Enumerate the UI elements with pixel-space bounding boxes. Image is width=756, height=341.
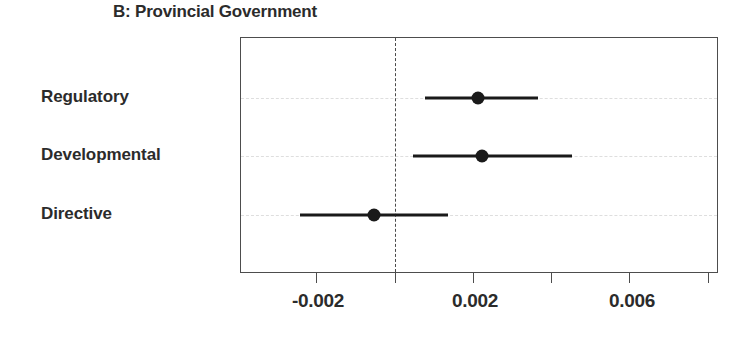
ytick-label-regulatory: Regulatory <box>41 87 129 107</box>
xtick-mark-3 <box>473 273 474 283</box>
point-estimate-regulatory <box>472 92 485 105</box>
ytick-label-directive: Directive <box>41 204 112 224</box>
xtick-label-0002: 0.002 <box>452 290 498 312</box>
point-estimate-directive <box>368 209 381 222</box>
point-estimate-developmental <box>476 150 489 163</box>
xtick-mark-2 <box>395 273 396 283</box>
xtick-mark-6 <box>708 273 709 283</box>
xtick-label-neg-0002: -0.002 <box>292 290 344 312</box>
forest-plot-figure: B: Provincial Government Regulatory Deve… <box>0 0 756 341</box>
ytick-label-developmental: Developmental <box>41 145 161 165</box>
xtick-mark-5 <box>629 273 630 283</box>
confidence-interval-developmental <box>413 155 572 158</box>
panel-title: B: Provincial Government <box>113 2 317 22</box>
xtick-mark-4 <box>551 273 552 283</box>
plot-area <box>240 37 718 273</box>
xtick-label-0006: 0.006 <box>609 290 655 312</box>
xtick-mark-1 <box>316 273 317 283</box>
zero-reference-line <box>395 38 396 272</box>
